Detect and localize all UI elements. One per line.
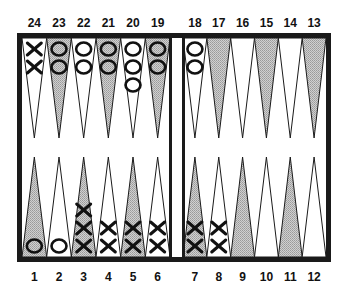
point-8-triangle[interactable] bbox=[207, 157, 231, 257]
point-18-triangle[interactable] bbox=[183, 38, 207, 138]
point-2-triangle[interactable] bbox=[47, 157, 72, 257]
point-19-triangle[interactable] bbox=[145, 38, 170, 138]
point-20-triangle[interactable] bbox=[121, 38, 146, 138]
point-label-14: 14 bbox=[284, 16, 298, 30]
point-label-12: 12 bbox=[307, 270, 321, 284]
point-label-18: 18 bbox=[188, 16, 202, 30]
point-label-16: 16 bbox=[236, 16, 250, 30]
point-9-triangle[interactable] bbox=[231, 157, 255, 257]
point-label-15: 15 bbox=[260, 16, 274, 30]
point-16-triangle[interactable] bbox=[231, 38, 255, 138]
point-15-triangle[interactable] bbox=[255, 38, 279, 138]
point-label-10: 10 bbox=[260, 270, 274, 284]
point-label-7: 7 bbox=[192, 270, 199, 284]
point-4-triangle[interactable] bbox=[96, 157, 121, 257]
bottom-point-labels: 123456789101112 bbox=[31, 270, 321, 284]
point-5-triangle[interactable] bbox=[121, 157, 146, 257]
point-label-11: 11 bbox=[284, 270, 297, 284]
points-layer bbox=[22, 38, 326, 257]
point-label-21: 21 bbox=[102, 16, 116, 30]
point-label-20: 20 bbox=[126, 16, 140, 30]
point-1-triangle[interactable] bbox=[22, 157, 47, 257]
point-13-triangle[interactable] bbox=[302, 38, 326, 138]
top-point-labels: 242322212019181716151413 bbox=[28, 16, 321, 30]
point-24-triangle[interactable] bbox=[22, 38, 47, 138]
point-label-23: 23 bbox=[52, 16, 66, 30]
point-label-24: 24 bbox=[28, 16, 42, 30]
point-label-2: 2 bbox=[56, 270, 63, 284]
point-21-triangle[interactable] bbox=[96, 38, 121, 138]
point-14-triangle[interactable] bbox=[278, 38, 302, 138]
point-6-triangle[interactable] bbox=[145, 157, 170, 257]
point-label-19: 19 bbox=[151, 16, 165, 30]
point-10-triangle[interactable] bbox=[255, 157, 279, 257]
point-3-triangle[interactable] bbox=[71, 157, 96, 257]
point-label-1: 1 bbox=[31, 270, 38, 284]
frame-left bbox=[17, 33, 22, 262]
point-label-4: 4 bbox=[105, 270, 112, 284]
point-7-triangle[interactable] bbox=[183, 157, 207, 257]
point-12-triangle[interactable] bbox=[302, 157, 326, 257]
bar-right-edge bbox=[182, 33, 185, 262]
point-label-5: 5 bbox=[130, 270, 137, 284]
point-11-triangle[interactable] bbox=[278, 157, 302, 257]
point-17-triangle[interactable] bbox=[207, 38, 231, 138]
point-label-17: 17 bbox=[212, 16, 226, 30]
point-label-6: 6 bbox=[154, 270, 161, 284]
backgammon-board: 242322212019181716151413 123456789101112 bbox=[0, 0, 349, 299]
point-label-13: 13 bbox=[307, 16, 321, 30]
point-23-triangle[interactable] bbox=[47, 38, 72, 138]
frame-top bbox=[17, 33, 331, 38]
frame-bottom bbox=[17, 257, 331, 262]
bar-left-edge bbox=[169, 33, 172, 262]
point-label-8: 8 bbox=[215, 270, 222, 284]
frame-right bbox=[326, 33, 331, 262]
point-label-3: 3 bbox=[80, 270, 87, 284]
point-label-22: 22 bbox=[77, 16, 91, 30]
point-label-9: 9 bbox=[239, 270, 246, 284]
point-22-triangle[interactable] bbox=[71, 38, 96, 138]
